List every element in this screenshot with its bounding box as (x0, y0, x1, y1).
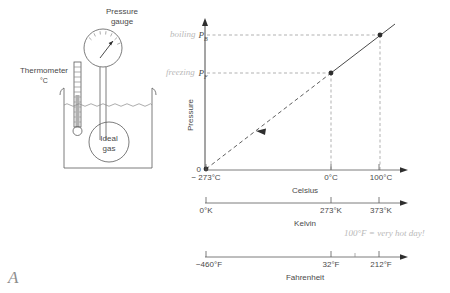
celsius-tick-label-1: 0°C (324, 173, 338, 182)
celsius-axis-name: Celsius (292, 186, 318, 195)
corner-mark-annotation: A (7, 268, 19, 287)
thermometer-mercury-column (76, 95, 80, 127)
pressure-axis-arrow (202, 18, 208, 26)
kelvin-axis-arrow (400, 200, 408, 206)
fahrenheit-axis-name: Fahrenheit (286, 273, 325, 282)
thermometer-label-line2: °C (40, 77, 48, 84)
boiling-annotation: boiling (170, 29, 196, 39)
ideal-gas-label-line2: gas (103, 144, 116, 153)
pressure-gauge-ticks (89, 31, 120, 44)
kelvin-axis-name: Kelvin (294, 219, 316, 228)
figure-root: Pressure gauge Thermometer °C (0, 0, 450, 293)
fahrenheit-axis: −460°F 32°F 212°F Fahrenheit (196, 251, 408, 282)
ideal-gas-label-line1: Ideal (100, 134, 118, 143)
extrapolation-segment (206, 73, 331, 169)
datapoint-freezing (329, 71, 334, 76)
datapoint-boiling (378, 33, 383, 38)
thermometer-label-line1: Thermometer (20, 66, 68, 75)
celsius-axis: − 273°C 0°C 100°C Celsius (191, 164, 408, 195)
celsius-tick-label-2: 100°C (370, 173, 393, 182)
boiling-pressure-subscript: B (204, 36, 208, 42)
thermometer-bulb (73, 127, 82, 136)
apparatus-group: Pressure gauge Thermometer °C (20, 7, 156, 168)
fahrenheit-tick-label-0: −460°F (196, 260, 222, 269)
pressure-gauge-label-line2: gauge (111, 17, 134, 26)
pressure-axis-label: Pressure (186, 98, 195, 131)
measured-segment (331, 24, 395, 73)
pressure-gauge-dial (84, 29, 122, 67)
pressure-gauge-label-line1: Pressure (106, 7, 139, 16)
celsius-tick-label-0: − 273°C (191, 173, 220, 182)
boiling-pressure-label: P B (198, 30, 209, 42)
graph-group: Pressure 0 P B boiling (166, 18, 425, 282)
fahrenheit-axis-arrow (400, 254, 408, 260)
kelvin-axis: 0°K 273°K 373°K Kelvin (200, 197, 408, 228)
freezing-annotation: freezing (166, 67, 195, 77)
fahrenheit-tick-label-2: 212°F (370, 260, 392, 269)
fahrenheit-tick-label-1: 32°F (323, 260, 340, 269)
pressure-gauge-needle-tip (109, 41, 113, 46)
thermometry-figure: Pressure gauge Thermometer °C (0, 0, 450, 293)
kelvin-tick-label-1: 273°K (320, 206, 343, 215)
celsius-axis-arrow (400, 167, 408, 173)
hot-day-annotation: 100°F = very hot day! (344, 228, 425, 238)
kelvin-tick-label-2: 373°K (370, 206, 393, 215)
freezing-pressure-subscript: F (203, 74, 208, 80)
freezing-pressure-label: P F (198, 68, 209, 80)
kelvin-tick-label-0: 0°K (200, 206, 214, 215)
